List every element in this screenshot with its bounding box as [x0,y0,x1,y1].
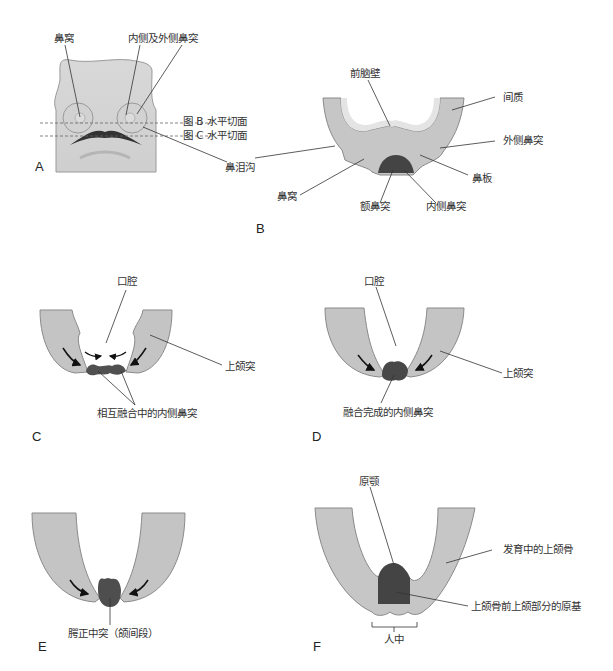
label-f-primary-palate: 原颚 [359,476,379,487]
label-b-mesenchyme: 间质 [503,92,523,103]
panel-letter-b: B [256,222,265,235]
label-c-maxillary: 上颌突 [225,361,255,372]
label-f-philtrum: 人中 [384,634,404,645]
label-a-plane-c: 图 C 水平切面 [183,130,247,141]
label-c-fusing-medial-nasal: 相互融合中的内侧鼻突 [97,408,197,419]
label-e-intermaxillary: 腭正中突（颌间段） [68,628,158,639]
label-b-nasal-placode: 鼻板 [472,173,492,184]
panel-letter-a: A [35,160,44,173]
label-a-nasolacrimal-groove: 鼻泪沟 [225,162,255,173]
label-a-plane-b: 图 B 水平切面 [183,116,247,127]
label-a-nasal-pit: 鼻窝 [54,33,74,44]
panel-letter-f: F [313,640,321,653]
label-b-lateral-nasal: 外侧鼻突 [503,135,543,146]
label-c-oral-cavity: 口腔 [117,276,137,287]
label-b-medial-nasal: 内侧鼻突 [426,201,466,212]
label-b-nasal-pit: 鼻窝 [277,191,297,202]
label-b-frontonasal: 额鼻突 [360,201,390,212]
panel-letter-d: D [312,430,321,443]
label-d-maxillary: 上颌突 [503,368,533,379]
panel-c-fusing-section [40,290,222,405]
label-a-medial-lateral-nasal: 内侧及外侧鼻突 [128,33,198,44]
panel-letter-e: E [38,640,47,653]
label-f-premaxilla-primordium: 上颌骨前上颌部分的原基 [471,601,581,612]
panel-e-intermaxillary-section [32,513,185,625]
panel-f-maxilla-section [315,487,492,632]
panel-letter-c: C [32,430,41,443]
panel-a-face-drawing [40,45,335,172]
label-d-oral-cavity: 口腔 [364,276,384,287]
label-d-fused-medial-nasal: 融合完成的内侧鼻突 [343,407,433,418]
label-b-forebrain-wall: 前脑壁 [350,68,380,79]
panel-d-fused-section [325,287,502,403]
label-f-developing-maxilla: 发育中的上颌骨 [503,544,573,555]
panel-b-cross-section [300,80,495,203]
